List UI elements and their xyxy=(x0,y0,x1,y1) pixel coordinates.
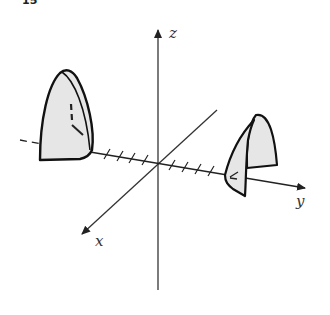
z-axis: z xyxy=(158,24,177,290)
figure-number: 15 xyxy=(22,0,37,7)
left-cone-surface xyxy=(40,70,93,160)
z-axis-label: z xyxy=(168,24,177,42)
diagram-canvas: 15 z x y xyxy=(0,0,330,315)
x-axis: x xyxy=(82,110,217,250)
y-axis-label: y xyxy=(295,192,305,210)
x-axis-label: x xyxy=(95,232,104,250)
right-cone-surface xyxy=(225,115,277,196)
